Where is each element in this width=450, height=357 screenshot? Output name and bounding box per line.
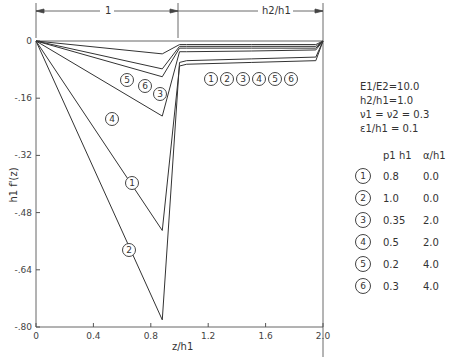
param-line: ν1 = ν2 = 0.3 bbox=[360, 108, 429, 122]
parameters-block: E1/E2=10.0 h2/h1=1.0 ν1 = ν2 = 0.3 ε1/h1… bbox=[360, 80, 429, 136]
x-tick-label: 0 bbox=[33, 331, 39, 341]
legend-marker: 4 bbox=[355, 234, 371, 250]
param-line: E1/E2=10.0 bbox=[360, 80, 429, 94]
region1-label: 1 bbox=[105, 5, 111, 16]
legend-header-alpha: α/h1 bbox=[423, 150, 450, 161]
svg-text:5: 5 bbox=[124, 75, 130, 85]
legend-alpha: 4.0 bbox=[423, 281, 450, 292]
x-tick-label: 1.2 bbox=[201, 331, 215, 341]
curve-label-3: 3 bbox=[154, 88, 167, 101]
legend-row: 60.34.0 bbox=[355, 275, 450, 297]
x-tick-label: 0.8 bbox=[144, 331, 159, 341]
legend-header: p1 h1 α/h1 bbox=[383, 150, 450, 161]
curve-label-1: 1 bbox=[205, 73, 218, 86]
svg-text:6: 6 bbox=[288, 74, 294, 84]
curve-label-6: 6 bbox=[139, 80, 152, 93]
x-axis-label: z/h1 bbox=[172, 341, 193, 352]
svg-text:3: 3 bbox=[157, 89, 163, 99]
legend-alpha: 2.0 bbox=[423, 215, 450, 226]
legend-p1h1: 0.35 bbox=[383, 215, 423, 226]
legend-p1h1: 0.3 bbox=[383, 281, 423, 292]
legend-marker: 1 bbox=[355, 168, 371, 184]
curve-label-4: 4 bbox=[106, 113, 119, 126]
legend-header-p1h1: p1 h1 bbox=[383, 150, 423, 161]
curve-label-6: 6 bbox=[285, 73, 298, 86]
curve-labels: 112233445566 bbox=[106, 73, 298, 257]
legend-row: 21.00.0 bbox=[355, 187, 450, 209]
y-tick-label: -.32 bbox=[14, 150, 32, 160]
curve-label-4: 4 bbox=[253, 73, 266, 86]
legend-table: p1 h1 α/h1 10.80.021.00.030.352.040.52.0… bbox=[355, 150, 450, 297]
curve-label-3: 3 bbox=[237, 73, 250, 86]
curve-label-1: 1 bbox=[126, 177, 139, 190]
legend-p1h1: 0.8 bbox=[383, 171, 423, 182]
curve-label-2: 2 bbox=[123, 244, 136, 257]
y-tick-label: -.48 bbox=[14, 208, 32, 218]
legend-p1h1: 0.5 bbox=[383, 237, 423, 248]
svg-text:2: 2 bbox=[126, 245, 132, 255]
y-axis-label: h1 f'(z) bbox=[8, 167, 19, 202]
legend-alpha: 4.0 bbox=[423, 259, 450, 270]
legend-p1h1: 0.2 bbox=[383, 259, 423, 270]
svg-text:6: 6 bbox=[142, 81, 148, 91]
svg-text:5: 5 bbox=[272, 74, 278, 84]
y-tick-label: 0 bbox=[26, 36, 32, 46]
x-axis-ticks: 00.40.81.21.62.0 bbox=[33, 323, 330, 341]
legend-alpha: 0.0 bbox=[423, 193, 450, 204]
x-tick-label: 0.4 bbox=[86, 331, 101, 341]
svg-text:2: 2 bbox=[224, 74, 230, 84]
legend-alpha: 2.0 bbox=[423, 237, 450, 248]
legend-marker: 6 bbox=[355, 278, 371, 294]
legend-p1h1: 1.0 bbox=[383, 193, 423, 204]
param-line: ε1/h1 = 0.1 bbox=[360, 122, 429, 136]
legend-marker: 2 bbox=[355, 190, 371, 206]
legend-marker: 5 bbox=[355, 256, 371, 272]
x-tick-label: 1.6 bbox=[258, 331, 273, 341]
legend-row: 40.52.0 bbox=[355, 231, 450, 253]
x-tick-label: 2.0 bbox=[316, 331, 331, 341]
param-line: h2/h1=1.0 bbox=[360, 94, 429, 108]
svg-text:3: 3 bbox=[240, 74, 246, 84]
top-dimension-lines bbox=[36, 3, 323, 357]
svg-text:1: 1 bbox=[129, 178, 135, 188]
svg-text:4: 4 bbox=[256, 74, 262, 84]
legend-marker: 3 bbox=[355, 212, 371, 228]
region2-label: h2/h1 bbox=[262, 5, 291, 16]
curve-label-2: 2 bbox=[221, 73, 234, 86]
legend-alpha: 0.0 bbox=[423, 171, 450, 182]
svg-text:4: 4 bbox=[109, 114, 115, 124]
svg-text:1: 1 bbox=[208, 74, 214, 84]
legend-row: 30.352.0 bbox=[355, 209, 450, 231]
curve-label-5: 5 bbox=[269, 73, 282, 86]
y-tick-label: -.80 bbox=[14, 322, 32, 332]
y-tick-label: -.64 bbox=[14, 265, 32, 275]
y-tick-label: -.16 bbox=[14, 93, 32, 103]
curve-label-5: 5 bbox=[121, 74, 134, 87]
legend-row: 50.24.0 bbox=[355, 253, 450, 275]
legend-row: 10.80.0 bbox=[355, 165, 450, 187]
